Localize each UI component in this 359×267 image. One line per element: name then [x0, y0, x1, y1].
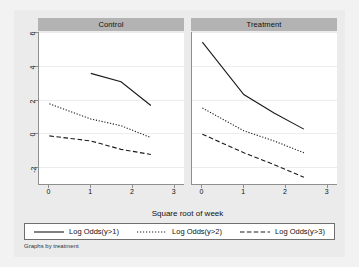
plot-area-treatment: [191, 32, 337, 184]
y-tick-label: 0: [30, 133, 37, 137]
y-tick-label: 4: [30, 65, 37, 69]
y-axis: 6 4 2 0 -2: [14, 32, 38, 184]
series-lines-treatment: [192, 32, 337, 184]
panel-control: Control 6 4 2 0 -2: [38, 18, 184, 204]
legend-label: Log Odds(y>1): [69, 227, 119, 236]
x-tick-label: 3: [325, 188, 329, 195]
chart-figure: Control 6 4 2 0 -2: [14, 10, 345, 257]
series-line-dotted: [202, 108, 303, 153]
y-tick-label: 2: [30, 99, 37, 103]
legend-item-y3: Log Odds(y>3): [240, 227, 325, 236]
panel-title-control: Control: [38, 18, 184, 31]
legend-key-dotted-icon: [137, 228, 167, 236]
x-tick-label: 1: [241, 188, 245, 195]
y-tick-label: 6: [30, 32, 37, 36]
series-line-dashed: [202, 134, 303, 177]
chart-note: Graphs by treatment: [24, 243, 79, 249]
panel-treatment: Treatment 0 1 2 3: [191, 18, 337, 204]
plot-area-control: [38, 32, 184, 184]
x-axis-line: [38, 184, 184, 185]
x-tick-label: 1: [88, 188, 92, 195]
x-tick-label: 0: [199, 188, 203, 195]
series-line-dotted: [49, 104, 150, 138]
chart-legend: Log Odds(y>1) Log Odds(y>2) Log Odds(y>3…: [24, 223, 335, 240]
series-line-dashed: [49, 136, 150, 155]
legend-item-y2: Log Odds(y>2): [137, 227, 222, 236]
series-lines-control: [39, 32, 184, 184]
legend-label: Log Odds(y>3): [275, 227, 325, 236]
panel-container: Control 6 4 2 0 -2: [38, 18, 337, 204]
panel-title-treatment: Treatment: [191, 18, 337, 31]
x-axis-line: [191, 184, 337, 185]
legend-key-dashed-icon: [240, 228, 270, 236]
legend-item-y1: Log Odds(y>1): [34, 227, 119, 236]
x-tick-label: 2: [130, 188, 134, 195]
legend-label: Log Odds(y>2): [172, 227, 222, 236]
x-tick-label: 0: [46, 188, 50, 195]
x-axis-treatment: 0 1 2 3: [191, 184, 337, 204]
x-axis-control: 0 1 2 3: [38, 184, 184, 204]
series-line-solid: [202, 42, 303, 129]
x-axis-title: Square root of week: [38, 209, 337, 218]
series-line-solid: [91, 73, 151, 105]
x-tick-label: 3: [172, 188, 176, 195]
legend-key-solid-icon: [34, 228, 64, 236]
x-tick-label: 2: [283, 188, 287, 195]
y-tick-label: -2: [30, 167, 37, 173]
